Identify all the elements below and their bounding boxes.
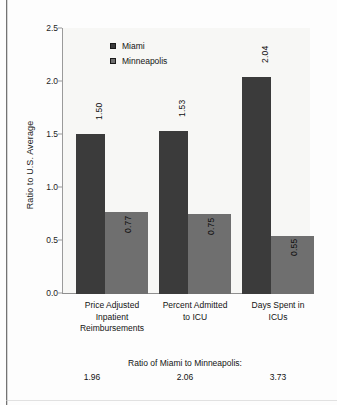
ratio-annotation-block: Ratio of Miami to Minneapolis: 1.96 2.06… — [40, 358, 330, 398]
category-label-line: Reimbursements — [64, 323, 160, 335]
ratio-value: 2.06 — [145, 372, 225, 382]
bar-value-label: 1.50 — [94, 103, 104, 120]
y-axis-tick-labels: 2.5 2.0 1.5 1.0 0.5 0.0 — [0, 0, 58, 405]
category-label-line: Price Adjusted — [64, 300, 160, 312]
bar-group: 1.53 0.75 — [159, 28, 231, 294]
ratio-annotation-title: Ratio of Miami to Minneapolis: — [40, 358, 330, 368]
bars-layer: 1.50 0.77 1.53 0.75 2.04 0.55 — [62, 28, 311, 294]
category-label-line: to ICU — [147, 312, 243, 324]
ratio-value: 1.96 — [52, 372, 132, 382]
y-tick-label: 2.0 — [4, 76, 58, 86]
ratio-value: 3.73 — [238, 372, 318, 382]
y-tick-label: 2.5 — [4, 23, 58, 33]
bar-value-label: 1.53 — [177, 100, 187, 117]
category-label-line: Percent Admitted — [147, 300, 243, 312]
bar-miami[interactable] — [242, 77, 271, 294]
category-label-line: Inpatient — [64, 312, 160, 324]
bar-group: 1.50 0.77 — [76, 28, 148, 294]
bar-value-label: 2.04 — [260, 46, 270, 63]
y-tick-label: 0.5 — [4, 235, 58, 245]
y-tick-label: 1.5 — [4, 129, 58, 139]
category-label-line: ICUs — [230, 312, 326, 324]
bar-miami[interactable] — [76, 134, 105, 294]
y-tick-label: 0.0 — [4, 288, 58, 298]
category-label-group-3: Days Spent in ICUs — [230, 300, 326, 323]
category-label-line: Days Spent in — [230, 300, 326, 312]
x-axis-category-labels: Price Adjusted Inpatient Reimbursements … — [62, 300, 311, 348]
category-label-group-1: Price Adjusted Inpatient Reimbursements — [64, 300, 160, 335]
bar-value-label: 0.55 — [289, 239, 299, 256]
bar-value-label: 0.75 — [206, 218, 216, 235]
category-label-group-2: Percent Admitted to ICU — [147, 300, 243, 323]
bar-chart-figure: Ratio to U.S. Average 2.5 2.0 1.5 1.0 0.… — [0, 0, 337, 405]
bar-value-label: 0.77 — [123, 216, 133, 233]
bar-group: 2.04 0.55 — [242, 28, 314, 294]
bar-miami[interactable] — [159, 131, 188, 294]
y-tick-label: 1.0 — [4, 182, 58, 192]
